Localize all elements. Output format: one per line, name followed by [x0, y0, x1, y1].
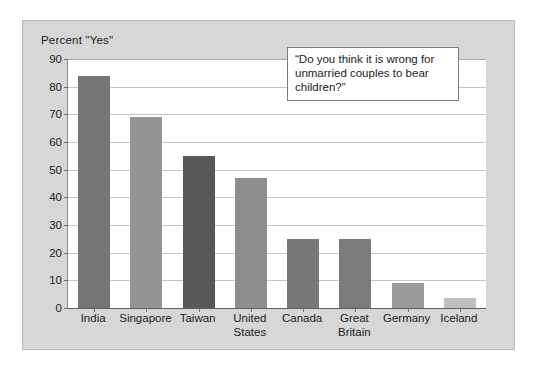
y-axis-tick-label: 20: [49, 247, 62, 259]
x-axis-category-label-line: United: [224, 312, 276, 326]
y-axis-tick-mark: [64, 170, 68, 171]
annotation-text: “Do you think it is wrong for unmarried …: [295, 53, 434, 93]
bar: [78, 76, 110, 308]
y-axis-tick-mark: [64, 142, 68, 143]
x-axis-category-label-line: Britain: [328, 326, 380, 340]
y-axis-tick-mark: [64, 197, 68, 198]
y-axis-tick-mark: [64, 59, 68, 60]
gridline: [68, 114, 486, 115]
x-axis-category-label: Canada: [276, 312, 328, 326]
x-axis-category-label: Germany: [381, 312, 433, 326]
y-axis-tick-label: 0: [56, 302, 62, 314]
y-axis-tick-label: 30: [49, 219, 62, 231]
bar: [339, 239, 371, 308]
x-axis-category-label: UnitedStates: [224, 312, 276, 339]
question-annotation-callout: “Do you think it is wrong for unmarried …: [287, 47, 459, 101]
bar: [183, 156, 215, 308]
y-axis-tick-label: 60: [49, 136, 62, 148]
x-axis-category-label: Iceland: [433, 312, 485, 326]
y-axis-tick-label: 70: [49, 108, 62, 120]
x-axis-category-label-line: States: [224, 326, 276, 340]
y-axis-tick-mark: [64, 308, 68, 309]
x-axis-category-label: GreatBritain: [328, 312, 380, 339]
chart-figure: Percent "Yes" 0102030405060708090 IndiaS…: [22, 20, 515, 350]
x-axis-category-label-line: Iceland: [433, 312, 485, 326]
bar: [287, 239, 319, 308]
x-axis-category-label-line: Taiwan: [172, 312, 224, 326]
x-axis-category-label-line: Singapore: [119, 312, 171, 326]
y-axis-tick-mark: [64, 280, 68, 281]
x-axis-category-label-line: Canada: [276, 312, 328, 326]
x-axis-category-label: India: [67, 312, 119, 326]
bar: [235, 178, 267, 308]
x-axis-category-label: Singapore: [119, 312, 171, 326]
x-axis-category-label-line: Great: [328, 312, 380, 326]
y-axis-tick-label: 90: [49, 53, 62, 65]
y-axis-tick-labels: 0102030405060708090: [23, 59, 62, 309]
x-axis-category-label-line: Germany: [381, 312, 433, 326]
bar: [444, 298, 476, 308]
y-axis-title: Percent "Yes": [41, 34, 113, 46]
bar: [392, 283, 424, 308]
x-axis-category-label: Taiwan: [172, 312, 224, 326]
y-axis-tick-mark: [64, 114, 68, 115]
y-axis-tick-mark: [64, 253, 68, 254]
y-axis-tick-label: 50: [49, 164, 62, 176]
y-axis-tick-label: 80: [49, 81, 62, 93]
x-axis-category-label-line: India: [67, 312, 119, 326]
y-axis-tick-mark: [64, 225, 68, 226]
y-axis-tick-mark: [64, 87, 68, 88]
y-axis-tick-label: 40: [49, 191, 62, 203]
y-axis-tick-label: 10: [49, 274, 62, 286]
x-axis-category-labels: IndiaSingaporeTaiwanUnitedStatesCanadaGr…: [67, 312, 486, 352]
bar: [130, 117, 162, 308]
